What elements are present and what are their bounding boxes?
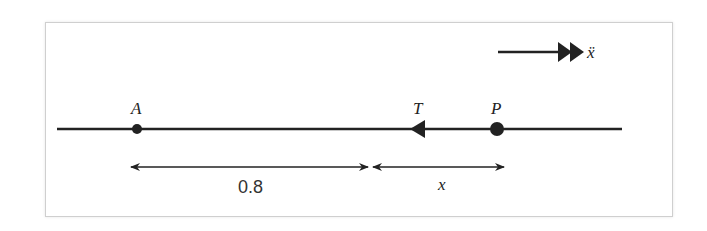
dimension-x-label: x (437, 175, 446, 194)
tension-arrow-icon (410, 120, 425, 138)
point-p-label: P (490, 99, 501, 118)
acceleration-arrow-icon (498, 42, 584, 62)
motion-diagram: ẍ A T P 0.8 x (0, 0, 707, 231)
acceleration-label: ẍ (586, 43, 595, 62)
point-a-dot (132, 124, 142, 134)
tension-label: T (413, 99, 424, 118)
dimension-0.8-label: 0.8 (238, 177, 263, 197)
point-p-dot (490, 122, 504, 136)
point-a-label: A (130, 99, 142, 118)
